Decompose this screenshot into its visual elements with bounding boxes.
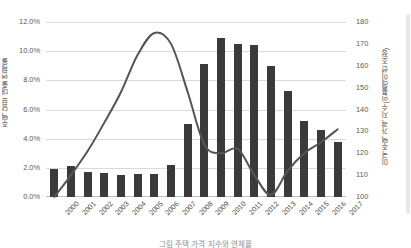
x-tick: 2000	[64, 200, 80, 216]
bar	[234, 44, 242, 197]
gridline	[46, 110, 346, 111]
x-tick: 2011	[247, 200, 263, 216]
bar	[117, 175, 125, 197]
bar	[134, 174, 142, 197]
x-tick: 2014	[297, 200, 313, 216]
y-tick-left: 0.0%	[6, 193, 40, 200]
y-tick-left: 6.0%	[6, 106, 40, 113]
y-tick-left: 10.0%	[6, 47, 40, 54]
bar	[167, 165, 175, 197]
y-axis-left-title: 주택 담보 대출 연체율	[2, 58, 9, 127]
x-tick: 2008	[197, 200, 213, 216]
bar	[267, 66, 275, 197]
bar	[84, 172, 92, 197]
bar	[100, 173, 108, 197]
x-tick: 2010	[231, 200, 247, 216]
y-tick-right: 150	[356, 84, 368, 91]
y-tick-right: 120	[356, 149, 368, 156]
y-tick-right: 130	[356, 127, 368, 134]
y-tick-left: 2.0%	[6, 164, 40, 171]
y-tick-left: 4.0%	[6, 135, 40, 142]
y-tick-left: 8.0%	[6, 76, 40, 83]
y-tick-right: 140	[356, 106, 368, 113]
y-tick-right: 160	[356, 62, 368, 69]
bar	[250, 45, 258, 197]
bar	[317, 130, 325, 197]
bar	[334, 142, 342, 197]
x-tick: 2001	[81, 200, 97, 216]
gridline	[46, 51, 346, 52]
y-tick-left: 12.0%	[6, 18, 40, 25]
scrollbar[interactable]	[406, 14, 410, 214]
bar	[284, 91, 292, 197]
x-tick: 2006	[164, 200, 180, 216]
chart-caption: 그림 주택 가격 지수와 연체율	[0, 239, 411, 248]
x-tick: 2003	[114, 200, 130, 216]
bar	[50, 169, 58, 197]
x-tick: 2017	[347, 200, 363, 216]
x-tick: 2015	[314, 200, 330, 216]
chart-container: 주택 담보 대출 연체율 미국 주택 가격 지수(인플레이션 조정) 0.0%2…	[0, 0, 411, 248]
x-tick: 2004	[131, 200, 147, 216]
x-tick: 2002	[97, 200, 113, 216]
bar	[200, 64, 208, 197]
gridline	[46, 80, 346, 81]
bar	[300, 121, 308, 197]
y-tick-right: 110	[356, 171, 368, 178]
x-tick: 2007	[181, 200, 197, 216]
x-tick: 2005	[147, 200, 163, 216]
y-tick-right: 170	[356, 40, 368, 47]
y-tick-right: 180	[356, 18, 368, 25]
x-tick: 2012	[264, 200, 280, 216]
line-path	[54, 32, 337, 197]
x-tick: 2009	[214, 200, 230, 216]
plot-area	[46, 22, 346, 197]
x-tick: 2013	[281, 200, 297, 216]
bar	[184, 124, 192, 197]
gridline	[46, 22, 346, 23]
y-axis-right-title: 미국 주택 가격 지수(인플레이션 조정)	[382, 48, 389, 165]
bar	[67, 166, 75, 197]
x-tick: 2016	[331, 200, 347, 216]
bar	[150, 174, 158, 197]
bar	[217, 38, 225, 197]
